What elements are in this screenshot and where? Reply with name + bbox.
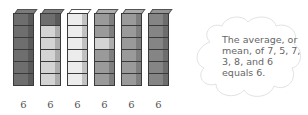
callout-text: The average, or mean, of 7, 5, 7, 3, 8, … (222, 34, 302, 78)
cube-6 (40, 73, 61, 86)
cube-6 (94, 73, 115, 86)
cube-tower-6 (148, 9, 169, 86)
callout-line-1: The average, or (222, 34, 302, 45)
tower-4-label: 6 (94, 99, 115, 110)
tower-6-label: 6 (148, 99, 169, 110)
callout-line-4: equals 6. (222, 67, 302, 78)
cube-6 (67, 73, 88, 86)
cube-tower-4 (94, 9, 115, 86)
tower-5-label: 6 (121, 99, 142, 110)
cube-tower-1 (13, 9, 34, 86)
cube-tower-2 (40, 9, 61, 86)
tower-3-label: 6 (67, 99, 88, 110)
callout-line-2: mean, of 7, 5, 7, (222, 45, 302, 56)
thought-cloud-callout: The average, or mean, of 7, 5, 7, 3, 8, … (190, 12, 304, 102)
cube-tower-3 (67, 9, 88, 86)
tower-1-label: 6 (13, 99, 34, 110)
cube-6 (121, 73, 142, 86)
callout-line-3: 3, 8, and 6 (222, 56, 302, 67)
tower-2-label: 6 (40, 99, 61, 110)
cube-6 (13, 73, 34, 86)
cube-tower-5 (121, 9, 142, 86)
cube-6 (148, 73, 169, 86)
